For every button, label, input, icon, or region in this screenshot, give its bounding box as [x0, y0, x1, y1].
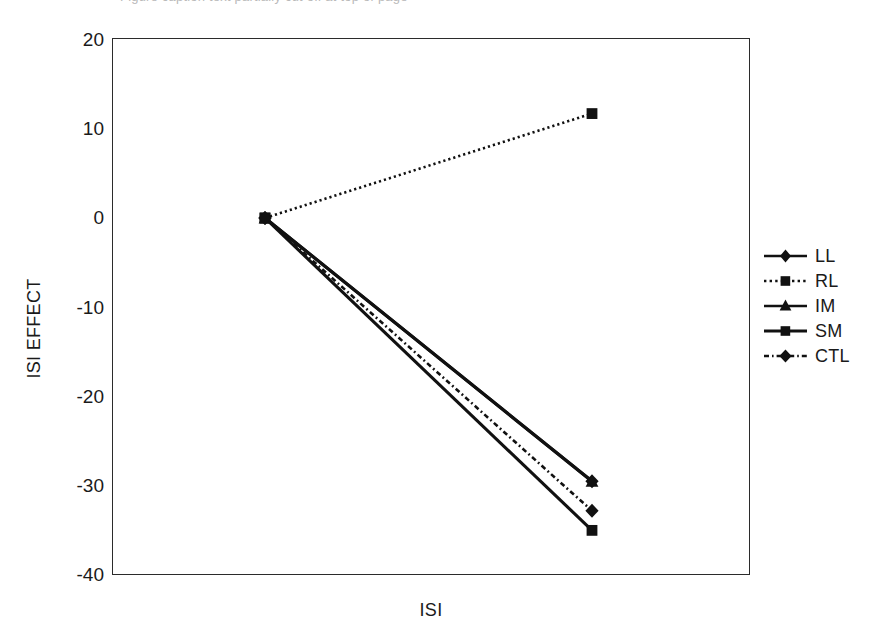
y-tick-label: 0 [42, 208, 104, 227]
legend-label-rl: RL [809, 272, 839, 290]
plot-area [112, 38, 750, 575]
legend-label-sm: SM [809, 322, 843, 340]
y-axis-title: ISI EFFECT [24, 239, 45, 419]
legend: LL RL IM [762, 243, 868, 368]
y-tick-label: 10 [42, 119, 104, 138]
legend-label-im: IM [809, 297, 836, 315]
legend-key-rl-icon [762, 271, 809, 291]
legend-item-sm: SM [762, 318, 868, 343]
legend-label-ctl: CTL [809, 347, 850, 365]
y-tick-label: -40 [42, 565, 104, 584]
legend-item-ll: LL [762, 243, 868, 268]
cut-off-caption-text: Figure caption text partially cut off at… [120, 0, 408, 4]
figure-chart-isi-effect: Figure caption text partially cut off at… [0, 0, 870, 642]
legend-item-rl: RL [762, 268, 868, 293]
legend-label-ll: LL [809, 247, 836, 265]
y-tick-label: -30 [42, 476, 104, 495]
legend-key-ll-icon [762, 246, 809, 266]
y-tick-label: -20 [42, 387, 104, 406]
cut-off-caption: Figure caption text partially cut off at… [0, 0, 870, 12]
legend-key-sm-icon [762, 321, 809, 341]
legend-item-ctl: CTL [762, 343, 868, 368]
y-tick-label: 20 [42, 30, 104, 49]
y-tick-label: -10 [42, 298, 104, 317]
legend-key-ctl-icon [762, 346, 809, 366]
legend-item-im: IM [762, 293, 868, 318]
x-axis-title: ISI [0, 600, 862, 621]
legend-key-im-icon [762, 296, 809, 316]
